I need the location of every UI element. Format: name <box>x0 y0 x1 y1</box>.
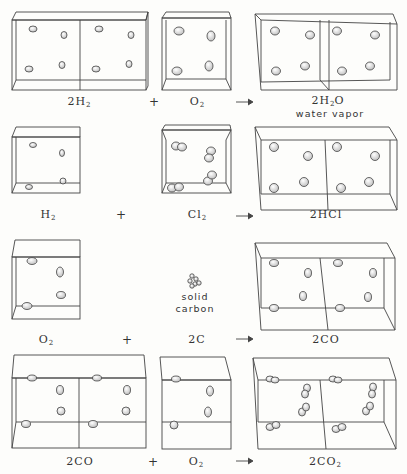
box-h2 <box>12 127 80 193</box>
box-2h2o <box>255 14 397 90</box>
box-o2-row4 <box>160 357 231 449</box>
plus-sign: + <box>116 208 126 222</box>
label-solid: solid <box>181 291 208 302</box>
carbon-cluster-icon <box>188 274 201 288</box>
label-2co-reactant: 2CO <box>66 455 93 468</box>
label-o2-row3: O2 <box>39 333 54 347</box>
label-2c: 2C <box>188 333 205 346</box>
box-2co2 <box>253 358 396 449</box>
label-2hcl: 2HCl <box>310 208 343 221</box>
label-2co: 2CO <box>312 333 339 346</box>
box-cl2 <box>162 125 231 193</box>
label-h2: H2 <box>40 208 55 222</box>
label-o2: O2 <box>190 95 205 109</box>
plus-sign: + <box>122 333 132 347</box>
arrow-icon <box>236 99 253 464</box>
plus-sign: + <box>148 455 158 469</box>
plus-sign: + <box>149 95 159 109</box>
box-2h2 <box>12 12 148 90</box>
box-2co-reactant <box>12 355 146 448</box>
reaction-diagram <box>0 0 407 474</box>
label-2co2: 2CO2 <box>309 455 341 469</box>
label-o2-row4: O2 <box>189 455 204 469</box>
box-2hcl <box>255 127 397 210</box>
label-carbon: carbon <box>176 303 215 314</box>
label-2h2o: 2H2O <box>311 94 344 108</box>
label-cl2: Cl2 <box>188 208 206 222</box>
label-2h2: 2H2 <box>67 95 90 109</box>
box-o2 <box>162 12 231 90</box>
label-water-vapor: water vapor <box>296 108 364 119</box>
box-2co <box>255 243 395 330</box>
